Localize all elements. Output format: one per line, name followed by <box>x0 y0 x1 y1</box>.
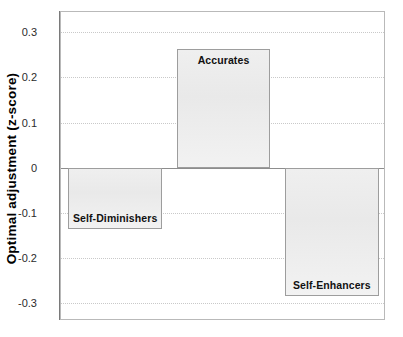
y-tick-label: -0.3 <box>0 297 37 309</box>
y-tick-label: -0.1 <box>0 207 37 219</box>
gridline <box>61 303 384 304</box>
bar-label: Accurates <box>178 54 270 66</box>
plot-area: 0.30.20.10-0.1-0.2-0.3Self-DiminishersAc… <box>60 11 385 320</box>
y-tick-label: 0.1 <box>0 117 37 129</box>
bar-self-enhancers[interactable]: Self-Enhancers <box>285 168 379 296</box>
y-tick-label: 0 <box>0 162 37 174</box>
bar-label: Self-Diminishers <box>69 212 161 224</box>
y-tick-label: 0.3 <box>0 26 37 38</box>
bar-self-diminishers[interactable]: Self-Diminishers <box>68 168 162 229</box>
gridline <box>61 32 384 33</box>
bar-chart-figure: Optimal adjustment (z-score) 0.30.20.10-… <box>0 0 403 337</box>
bar-label: Self-Enhancers <box>286 279 378 291</box>
y-tick-label: -0.2 <box>0 252 37 264</box>
bar-accurates[interactable]: Accurates <box>177 49 271 167</box>
y-tick-label: 0.2 <box>0 71 37 83</box>
